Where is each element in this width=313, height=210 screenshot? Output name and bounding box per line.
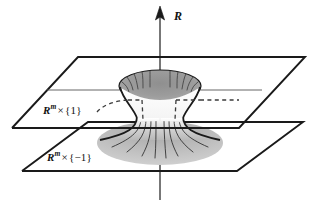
lower-plane-label: Rm×{−1} [47,150,92,163]
upper-plane-label-var: R [43,104,51,116]
upper-plane-label-times: × [57,104,65,116]
lower-plane-label-set: {−1} [69,151,92,163]
lower-plane-label-times: × [61,151,69,163]
upper-plane-label-exponent: m [51,102,57,111]
axis-label: R [174,10,182,22]
lower-plane-label-exponent: m [55,149,61,158]
upper-plane-label: Rm×{1} [43,103,82,116]
upper-plane-label-set: {1} [65,104,82,116]
figure-canvas: Rm×{1} Rm×{−1} R [0,0,313,210]
lower-plane-label-var: R [47,151,55,163]
